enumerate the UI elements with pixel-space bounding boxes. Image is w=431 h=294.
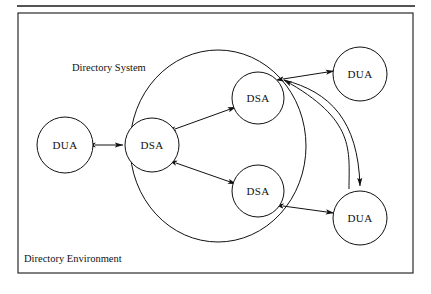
directory-system-label: Directory System xyxy=(72,62,146,73)
node-dua-left[interactable]: DUA xyxy=(37,117,93,173)
node-dsa-top[interactable]: DSA xyxy=(232,72,284,124)
figure-page: DUA DSA DSA DSA DUA DUA Directory System… xyxy=(0,0,431,294)
directory-system-diagram: DUA DSA DSA DSA DUA DUA Directory System… xyxy=(0,0,431,294)
node-dua-bottom-right[interactable]: DUA xyxy=(333,191,387,245)
edge-dsa-center-dsa-bottom xyxy=(176,163,236,184)
node-dsa-center[interactable]: DSA xyxy=(125,118,179,172)
node-dua-top-right[interactable]: DUA xyxy=(333,47,387,101)
dua-top-right-label: DUA xyxy=(347,68,372,80)
dsa-center-label: DSA xyxy=(140,139,163,151)
edge-dsa-top-dua-top-right xyxy=(283,71,334,79)
node-dsa-bottom[interactable]: DSA xyxy=(232,165,284,217)
dua-left-label: DUA xyxy=(52,139,77,151)
dua-bottom-right-label: DUA xyxy=(347,212,372,224)
dsa-top-label: DSA xyxy=(246,92,269,104)
dsa-bottom-label: DSA xyxy=(246,185,269,197)
edge-dsa-center-dsa-top xyxy=(175,107,236,129)
edge-dsa-bottom-dua-bottom-right xyxy=(283,206,334,213)
directory-environment-label: Directory Environment xyxy=(24,253,122,264)
